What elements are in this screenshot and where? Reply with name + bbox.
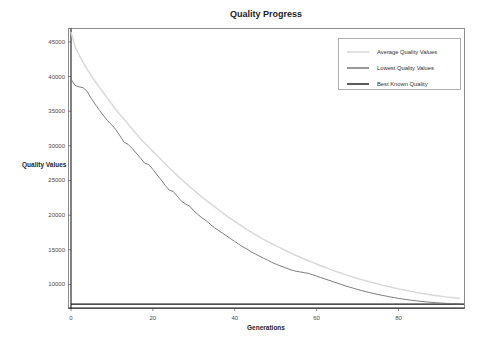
x-tick-label: 40 [231, 315, 238, 321]
y-tick-label: 15000 [48, 247, 65, 253]
series-lowest-quality-values [71, 79, 460, 304]
x-tick-label: 60 [313, 315, 320, 321]
y-tick-label: 45000 [48, 39, 65, 45]
y-tick-label: 20000 [48, 212, 65, 218]
chart-title: Quality Progress [230, 9, 302, 19]
x-tick-label: 0 [69, 315, 73, 321]
x-tick-label: 20 [150, 315, 157, 321]
y-tick-label: 35000 [48, 108, 65, 114]
x-axis-title: Generations [247, 324, 285, 331]
legend-label: Average Quality Values [377, 49, 437, 55]
x-tick-label: 80 [395, 315, 402, 321]
y-tick-label: 10000 [48, 281, 65, 287]
quality-progress-chart: Quality Progress 10000150002000025000300… [0, 0, 484, 341]
y-tick-label: 30000 [48, 143, 65, 149]
chart-legend: Average Quality ValuesLowest Quality Val… [339, 39, 461, 90]
x-axis-ticks: 020406080 [69, 308, 402, 321]
y-tick-label: 25000 [48, 177, 65, 183]
chart-container: Quality Progress 10000150002000025000300… [0, 0, 484, 341]
legend-label: Lowest Quality Values [377, 65, 434, 71]
y-axis-title: Quality Values [22, 161, 67, 169]
y-tick-label: 40000 [48, 74, 65, 80]
legend-label: Best Known Quality [377, 81, 428, 87]
